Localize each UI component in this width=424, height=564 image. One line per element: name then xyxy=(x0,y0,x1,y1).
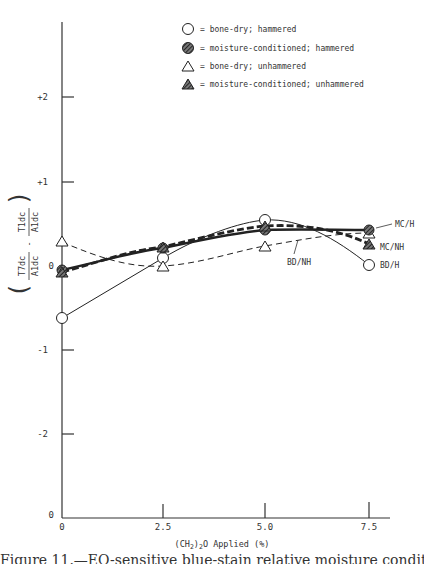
legend-item-bd-h: = bone-dry; hammered xyxy=(183,24,297,35)
legend-item-bd-nh: = bone-dry; unhammered xyxy=(182,61,306,71)
svg-text:0: 0 xyxy=(49,261,54,271)
svg-text:A1dc: A1dc xyxy=(30,256,40,276)
svg-text:): ) xyxy=(5,191,33,205)
svg-text:+2: +2 xyxy=(37,92,48,102)
series-bd-h-line xyxy=(62,220,369,318)
svg-text:-1: -1 xyxy=(37,345,48,355)
annotation-bd-h: BD/H xyxy=(380,261,399,270)
y-tick-labels: +2 +1 0 -1 -2 0 xyxy=(37,92,54,520)
svg-text:-: - xyxy=(24,241,34,246)
svg-text:T7dc: T7dc xyxy=(17,256,27,276)
svg-text:7.5: 7.5 xyxy=(361,522,377,532)
annotation-bd-nh: BD/NH xyxy=(287,258,311,267)
legend-item-mc-nh: = moisture-conditioned; unhammered xyxy=(182,79,364,89)
series-annotations: MC/H MC/NH BD/H BD/NH xyxy=(287,220,414,270)
svg-text:= moisture-conditioned; hammer: = moisture-conditioned; hammered xyxy=(200,44,354,53)
x-axis-label: (CH2)2O Applied (%) xyxy=(175,539,270,551)
svg-text:0: 0 xyxy=(59,522,64,532)
legend: = bone-dry; hammered = moisture-conditio… xyxy=(182,24,364,90)
svg-text:5.0: 5.0 xyxy=(257,522,273,532)
svg-text:+1: +1 xyxy=(37,177,48,187)
x-tick-labels: 0 2.5 5.0 7.5 xyxy=(59,522,377,532)
legend-item-mc-h: = moisture-conditioned; hammered xyxy=(183,43,355,54)
svg-text:0: 0 xyxy=(49,510,54,520)
svg-text:= moisture-conditioned; unhamm: = moisture-conditioned; unhammered xyxy=(200,80,364,89)
annotation-mc-nh: MC/NH xyxy=(380,243,404,252)
axes xyxy=(62,22,390,518)
svg-text:(: ( xyxy=(5,283,33,297)
svg-text:T1dc: T1dc xyxy=(17,212,27,232)
annotation-mc-h: MC/H xyxy=(395,220,414,229)
line-chart: +2 +1 0 -1 -2 0 0 2.5 5.0 7.5 (CH2)2O Ap… xyxy=(0,0,424,564)
y-axis-label: ( T7dc A1dc - T1dc A1dc ) xyxy=(5,191,40,297)
svg-text:-2: -2 xyxy=(37,429,48,439)
svg-text:= bone-dry; unhammered: = bone-dry; unhammered xyxy=(200,62,306,71)
svg-text:2.5: 2.5 xyxy=(155,522,171,532)
figure-caption: Figure 11.—EO-sensitive blue-stain relat… xyxy=(0,552,424,564)
series-mc-h-line xyxy=(62,230,369,270)
svg-text:A1dc: A1dc xyxy=(30,212,40,232)
series-lines xyxy=(62,220,369,318)
svg-text:= bone-dry; hammered: = bone-dry; hammered xyxy=(200,25,297,34)
